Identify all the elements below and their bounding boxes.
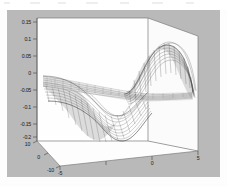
z-tick-label-5: -0.1: [7, 104, 31, 110]
z-tick-label-7: -0.2: [7, 134, 31, 140]
surface-plot-svg: [7, 10, 220, 177]
x-tick-label-1: -5: [52, 170, 68, 176]
z-tick-label-2: 0.05: [7, 53, 31, 59]
x-tick-label-3: 5: [190, 155, 206, 161]
right-margin: [220, 10, 227, 177]
y-tick-label-1: 0: [30, 154, 47, 160]
z-tick-label-4: -0.05: [7, 87, 31, 93]
bottom-margin: [0, 177, 227, 186]
x-tick-label-2: 0: [144, 160, 160, 166]
z-tick-label-3: 0: [7, 70, 31, 76]
top-artifact-strip: [0, 0, 227, 10]
z-tick-label-1: 0.1: [7, 36, 31, 42]
screenshot-root: 0.15 0.1 0.05 0 -0.05 -0.1 -0.15 -0.2 10…: [0, 0, 227, 186]
y-tick-label-0: 10: [19, 141, 36, 147]
left-margin: [0, 10, 7, 177]
z-axis: [33, 18, 37, 141]
matlab-figure-canvas[interactable]: 0.15 0.1 0.05 0 -0.05 -0.1 -0.15 -0.2 10…: [7, 10, 220, 177]
z-tick-label-0: 0.15: [7, 19, 31, 25]
surface-plot-axes[interactable]: 0.15 0.1 0.05 0 -0.05 -0.1 -0.15 -0.2 10…: [7, 10, 220, 177]
z-tick-label-6: -0.15: [7, 121, 31, 127]
